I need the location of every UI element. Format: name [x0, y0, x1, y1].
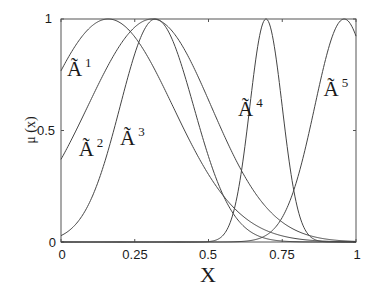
- x-tick-label-0-5: 0.5: [199, 247, 217, 262]
- axis-ticks: [61, 19, 356, 242]
- x-tick-label-0-25: 0.25: [122, 247, 147, 262]
- curve-a4: [61, 19, 356, 242]
- set-label-a5: Ã5: [324, 75, 349, 101]
- y-tick-label-1: 1: [45, 11, 52, 26]
- membership-curves: [61, 19, 356, 242]
- set-label-a3: Ã3: [120, 124, 145, 150]
- y-tick-label-0-5: 0.5: [37, 123, 55, 138]
- y-tick-label-0: 0: [49, 235, 56, 250]
- plot-area: [61, 19, 356, 242]
- y-axis-label: μ (x): [23, 116, 39, 144]
- curve-a2: [61, 19, 356, 241]
- membership-function-chart: Ã1Ã2Ã3Ã4Ã5 1 0.5 0 0 0.25 0.5 0.75 1 X μ…: [0, 0, 375, 298]
- curve-a5: [61, 19, 356, 242]
- set-label-a1: Ã1: [67, 55, 92, 81]
- set-label-a4: Ã4: [238, 95, 263, 121]
- curve-a1: [61, 19, 356, 242]
- x-tick-label-1: 1: [353, 247, 360, 262]
- plot-frame: [61, 19, 356, 242]
- x-tick-label-0-75: 0.75: [269, 247, 294, 262]
- x-axis-label: X: [200, 262, 216, 287]
- curve-a3: [61, 19, 356, 242]
- set-label-a2: Ã2: [79, 135, 104, 161]
- x-tick-label-0: 0: [58, 247, 65, 262]
